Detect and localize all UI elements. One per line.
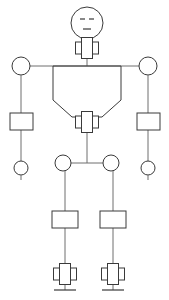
waist-group bbox=[76, 112, 99, 164]
torso-group bbox=[53, 66, 121, 117]
neck-joint-left-flange bbox=[76, 42, 82, 54]
right-ankle-right-flange bbox=[119, 268, 125, 280]
torso-polygon bbox=[53, 66, 121, 117]
right-hip-joint-circle bbox=[103, 155, 119, 171]
figure-svg-root bbox=[0, 0, 169, 300]
right-ankle-body bbox=[108, 264, 119, 285]
right-arm-group bbox=[137, 75, 160, 180]
right-ankle-joint-icon bbox=[102, 264, 125, 285]
left-ankle-body bbox=[60, 264, 71, 285]
left-hip-joint-circle bbox=[55, 155, 71, 171]
waist-joint-body bbox=[82, 112, 93, 133]
left-ankle-right-flange bbox=[71, 268, 77, 280]
left-hand-joint-circle bbox=[14, 161, 28, 175]
waist-joint-right-flange bbox=[93, 116, 99, 128]
head-group bbox=[71, 7, 103, 39]
right-thigh-link-block bbox=[100, 211, 126, 228]
right-leg-group bbox=[100, 171, 126, 290]
right-shoulder-joint-circle bbox=[139, 57, 157, 75]
left-upper-arm-link-block bbox=[10, 113, 33, 130]
neck-joint-body bbox=[82, 38, 93, 59]
neck-joint-right-flange bbox=[93, 42, 99, 54]
left-shoulder-joint-circle bbox=[12, 57, 30, 75]
right-ankle-left-flange bbox=[102, 268, 108, 280]
head-circle bbox=[71, 7, 103, 39]
left-ankle-left-flange bbox=[54, 268, 60, 280]
neck-joint-icon bbox=[76, 38, 99, 59]
left-arm-group bbox=[10, 75, 33, 180]
right-upper-arm-link-block bbox=[137, 113, 160, 130]
left-thigh-link-block bbox=[52, 211, 78, 228]
left-leg-group bbox=[52, 171, 78, 290]
waist-joint-icon bbox=[76, 112, 99, 133]
left-ankle-joint-icon bbox=[54, 264, 77, 285]
neck-group bbox=[76, 38, 99, 67]
kinematic-figure-diagram bbox=[0, 0, 169, 300]
waist-joint-left-flange bbox=[76, 116, 82, 128]
right-hand-joint-circle bbox=[141, 161, 155, 175]
